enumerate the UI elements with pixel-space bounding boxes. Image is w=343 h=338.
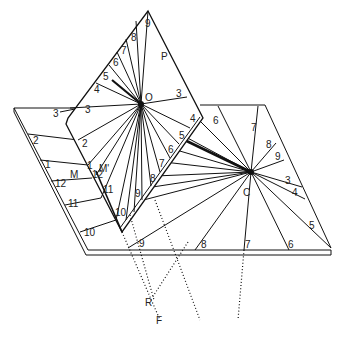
label-8-dial: 8 (150, 173, 156, 184)
label-5: 5 (103, 71, 109, 82)
label-6-plate: 6 (213, 115, 219, 126)
label-10-dial: 10 (115, 207, 127, 218)
label-9-plate: 9 (275, 151, 281, 162)
label-8-c: 8 (201, 239, 207, 250)
label-r: R (145, 297, 152, 308)
point-c (248, 169, 254, 175)
label-8: 8 (131, 32, 137, 43)
label-5-c: 5 (309, 220, 315, 231)
sundial-diagram: 9 8 7 6 5 4 P O 3 3 3 2 2 1 1 M' M 12 12… (0, 0, 343, 338)
label-4-c: 4 (292, 187, 298, 198)
label-7-plate: 7 (251, 122, 257, 133)
label-7: 7 (121, 45, 127, 56)
label-9-top: 9 (145, 18, 151, 29)
point-o (138, 101, 144, 107)
label-1-plate: 1 (45, 159, 51, 170)
label-6-c: 6 (288, 239, 294, 250)
label-12-dial: 12 (92, 169, 104, 180)
label-11-dial: 11 (103, 184, 114, 195)
label-f: F (156, 315, 162, 326)
label-2-dial: 2 (82, 138, 88, 149)
label-7-c: 7 (245, 239, 251, 250)
label-9-dial: 9 (135, 188, 141, 199)
label-4-dial: 4 (190, 113, 196, 124)
projection-lines (122, 200, 244, 320)
label-4: 4 (94, 84, 100, 95)
label-5-dial: 5 (179, 130, 185, 141)
label-12-plate: 12 (55, 178, 67, 189)
label-7-dial: 7 (159, 158, 165, 169)
label-3-c: 3 (285, 175, 291, 186)
label-6-dial: 6 (168, 144, 174, 155)
label-9-c: 9 (139, 238, 145, 249)
label-o: O (145, 92, 153, 103)
label-c: C (243, 187, 250, 198)
label-10-plate: 10 (84, 227, 96, 238)
label-m: M (70, 169, 78, 180)
label-2-plate: 2 (33, 135, 39, 146)
label-6: 6 (113, 57, 119, 68)
label-8-plate: 8 (266, 139, 272, 150)
label-3-plate: 3 (53, 108, 59, 119)
label-p: P (161, 51, 168, 62)
label-3-right: 3 (176, 88, 182, 99)
label-3-dial: 3 (85, 104, 91, 115)
label-11-plate: 11 (68, 198, 79, 209)
